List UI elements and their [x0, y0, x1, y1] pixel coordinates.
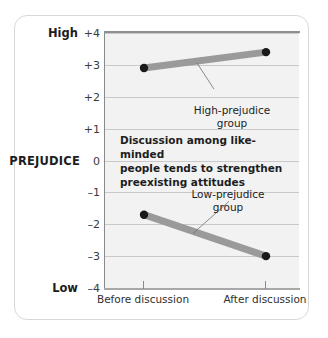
gridline — [105, 97, 299, 98]
x-tick-label-before: Before discussion — [97, 293, 189, 305]
series-low-prejudice — [140, 210, 270, 260]
y-tick-label: +3 — [66, 58, 100, 71]
y-tick-label: –3 — [66, 250, 100, 263]
x-tick-mark — [265, 281, 266, 289]
axis-end-label-high: High — [30, 26, 78, 40]
annotation-low-prejudice-group: Low-prejudice group — [176, 188, 280, 214]
y-tick-label: –1 — [66, 186, 100, 199]
annotation-caption: Discussion among like-minded people tend… — [120, 133, 296, 189]
gridline — [105, 224, 299, 225]
x-axis-line — [104, 288, 300, 290]
leader-line-high-prejudice — [197, 63, 214, 89]
series-high-prejudice — [140, 48, 270, 72]
x-tick-mark — [143, 281, 144, 289]
axis-end-label-low: Low — [30, 281, 78, 295]
y-axis-title: PREJUDICE — [8, 154, 80, 168]
y-tick-label: –2 — [66, 218, 100, 231]
data-point-high-after — [262, 48, 270, 56]
x-tick-label-after: After discussion — [224, 293, 307, 305]
series-line-low-prejudice — [144, 215, 266, 256]
gridline — [105, 33, 299, 34]
annotation-high-prejudice-group: High-prejudice group — [178, 104, 286, 130]
gridline — [105, 256, 299, 257]
data-point-low-before — [140, 210, 148, 218]
y-tick-label: +2 — [66, 90, 100, 103]
gridline — [105, 65, 299, 66]
y-tick-label: +1 — [66, 122, 100, 135]
figure-root: +4 +3 +2 +1 0 –1 –2 –3 –4 High Low PREJU… — [0, 0, 328, 338]
